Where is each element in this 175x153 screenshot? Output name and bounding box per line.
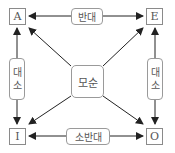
subaltern-left-char-2: 소 [13,79,22,92]
contrary-label: 반대 [71,8,103,25]
node-o-label: O [150,130,159,143]
subcontrary-label: 소반대 [66,128,110,145]
node-i: I [9,128,26,145]
subaltern-left-label: 대 소 [9,58,25,100]
subaltern-left-char-1: 대 [13,66,22,79]
contradictory-label: 모순 [71,65,104,98]
subaltern-right-char-2: 소 [151,79,160,92]
node-e-label: E [150,10,158,23]
node-a: A [9,8,26,25]
subaltern-right-label: 대 소 [147,58,163,100]
node-i-label: I [15,130,19,143]
subaltern-right-char-1: 대 [151,66,160,79]
contrary-text: 반대 [78,9,96,24]
node-o: O [146,128,163,145]
node-e: E [146,8,163,25]
node-a-label: A [14,10,22,23]
contradictory-text: 모순 [78,74,98,90]
subcontrary-text: 소반대 [75,129,102,144]
